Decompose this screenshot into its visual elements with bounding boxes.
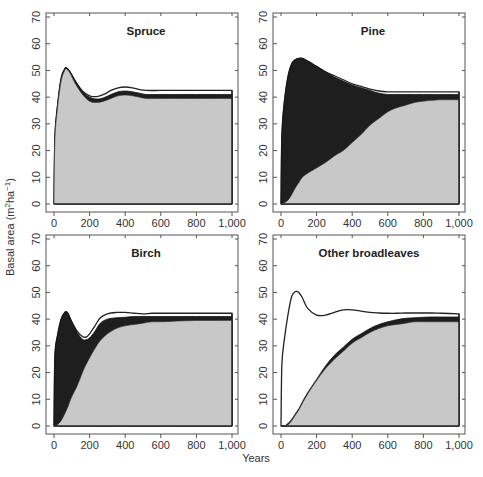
panel-title: Birch	[131, 247, 160, 259]
x-tick-label: 600	[152, 439, 170, 451]
x-tick-label: 800	[414, 217, 432, 229]
x-axis-label: Years	[242, 452, 270, 464]
y-tick-label: 50	[257, 286, 269, 298]
y-tick-label: 20	[30, 366, 42, 378]
x-tick-label: 1,000	[445, 439, 473, 451]
y-tick-label: 60	[30, 38, 42, 50]
y-tick-label: 50	[30, 64, 42, 76]
y-axis-label-end: )	[4, 178, 16, 182]
y-tick-label: 0	[30, 201, 42, 207]
panel-other-broadleaves: 02004006008001,000010203040506070Other b…	[257, 233, 473, 451]
y-tick-label: 40	[30, 313, 42, 325]
y-tick-label: 40	[30, 91, 42, 103]
x-tick-label: 1,000	[445, 217, 473, 229]
y-tick-label: 0	[257, 423, 269, 429]
y-tick-label: 0	[30, 423, 42, 429]
x-tick-label: 0	[51, 217, 57, 229]
y-tick-label: 0	[257, 201, 269, 207]
y-tick-label: 50	[257, 64, 269, 76]
y-tick-label: 10	[257, 171, 269, 183]
x-tick-label: 400	[343, 439, 361, 451]
y-tick-label: 70	[257, 233, 269, 245]
panel-title: Pine	[361, 25, 385, 37]
x-tick-label: 0	[278, 439, 284, 451]
y-tick-label: 30	[30, 118, 42, 130]
x-tick-label: 400	[343, 217, 361, 229]
x-tick-label: 0	[51, 439, 57, 451]
y-tick-label: 10	[30, 393, 42, 405]
x-tick-label: 800	[187, 439, 205, 451]
y-axis-label-mid: ha	[4, 190, 16, 203]
y-tick-label: 70	[30, 11, 42, 23]
y-tick-label: 30	[30, 340, 42, 352]
y-axis-label: Basal area (m2ha−1)	[3, 178, 16, 276]
x-tick-label: 400	[116, 217, 134, 229]
x-tick-label: 400	[116, 439, 134, 451]
y-tick-label: 50	[30, 286, 42, 298]
panel-pine: 02004006008001,000010203040506070Pine	[257, 11, 473, 229]
y-tick-label: 20	[30, 144, 42, 156]
x-tick-label: 200	[80, 217, 98, 229]
y-tick-label: 40	[257, 313, 269, 325]
panel-title: Spruce	[127, 25, 166, 37]
y-axis-label-base: Basal area (m	[4, 208, 16, 276]
panel-title: Other broadleaves	[319, 247, 420, 259]
y-tick-label: 30	[257, 340, 269, 352]
y-tick-label: 60	[30, 260, 42, 272]
x-tick-label: 200	[80, 439, 98, 451]
x-tick-label: 600	[379, 439, 397, 451]
y-tick-label: 60	[257, 38, 269, 50]
panel-birch: 02004006008001,000010203040506070Birch	[30, 233, 246, 451]
x-tick-label: 200	[307, 439, 325, 451]
x-tick-label: 800	[187, 217, 205, 229]
y-tick-label: 10	[257, 393, 269, 405]
x-tick-label: 1,000	[218, 217, 246, 229]
y-tick-label: 20	[257, 366, 269, 378]
x-tick-label: 800	[414, 439, 432, 451]
x-tick-label: 600	[152, 217, 170, 229]
y-tick-label: 70	[30, 233, 42, 245]
panel-spruce: 02004006008001,000010203040506070Spruce	[30, 11, 246, 229]
y-tick-label: 60	[257, 260, 269, 272]
y-tick-label: 20	[257, 144, 269, 156]
y-tick-label: 10	[30, 171, 42, 183]
y-tick-label: 70	[257, 11, 269, 23]
x-tick-label: 600	[379, 217, 397, 229]
y-tick-label: 30	[257, 118, 269, 130]
x-tick-label: 1,000	[218, 439, 246, 451]
y-tick-label: 40	[257, 91, 269, 103]
x-tick-label: 0	[278, 217, 284, 229]
panels-group: 02004006008001,000010203040506070Spruce0…	[30, 11, 473, 451]
x-tick-label: 200	[307, 217, 325, 229]
figure: 02004006008001,000010203040506070Spruce0…	[0, 0, 483, 477]
